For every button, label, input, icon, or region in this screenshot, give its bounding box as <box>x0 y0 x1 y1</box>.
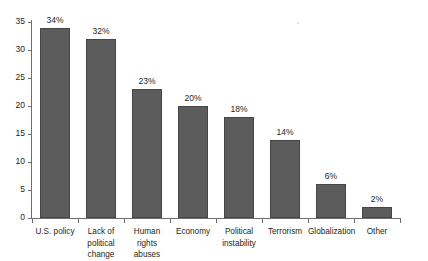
bar <box>316 184 346 218</box>
y-axis-tick: 35 <box>0 22 32 23</box>
y-axis-tick: 20 <box>0 106 32 107</box>
x-axis-category-label-line: Globalization <box>308 226 354 238</box>
x-axis-category-label: Terrorism <box>262 226 308 238</box>
bar-value-label: 32% <box>75 26 127 36</box>
bar-value-label: 18% <box>213 104 265 114</box>
y-axis-tick: 5 <box>0 190 32 191</box>
x-axis-tick-mark <box>354 219 355 223</box>
plot-area <box>32 22 400 218</box>
x-axis-category-label-line: Lack of <box>78 226 124 238</box>
y-axis-tick-label: 20 <box>16 100 25 111</box>
x-axis-category-label-line: instability <box>216 238 262 250</box>
x-axis-category-label-line: abuses <box>124 249 170 261</box>
y-axis-tick-label: 30 <box>16 44 25 55</box>
bar-value-label: 20% <box>167 93 219 103</box>
x-axis-category-label-line: Economy <box>170 226 216 238</box>
y-axis-tick: 30 <box>0 50 32 51</box>
y-axis-tick: 0 <box>0 218 32 219</box>
y-axis-tick-label: 25 <box>16 72 25 83</box>
x-axis-category-label: Other <box>354 226 400 238</box>
x-axis-tick-mark <box>262 219 263 223</box>
x-axis-tick-mark <box>124 219 125 223</box>
y-axis-tick: 10 <box>0 162 32 163</box>
x-axis-category-label-line: change <box>78 249 124 261</box>
x-axis-tick-mark <box>216 219 217 223</box>
y-axis-tick: 25 <box>0 78 32 79</box>
x-axis-category-label-line: Other <box>354 226 400 238</box>
bar <box>270 140 300 218</box>
x-axis-category-label-line: Political <box>216 226 262 238</box>
x-axis-category-label: Globalization <box>308 226 354 238</box>
bar <box>40 28 70 218</box>
x-axis-category-label: U.S. policy <box>32 226 78 238</box>
bar-value-label: 2% <box>351 194 403 204</box>
bar <box>132 89 162 218</box>
bar-value-label: 23% <box>121 76 173 86</box>
y-axis-tick-label: 0 <box>20 212 25 223</box>
x-axis-tick-mark <box>78 219 79 223</box>
bar-value-label: 6% <box>305 171 357 181</box>
bar-value-label: 34% <box>29 15 81 25</box>
x-axis-category-label-line: rights <box>124 238 170 250</box>
x-axis-category-label-line: Terrorism <box>262 226 308 238</box>
x-axis-tick-mark <box>308 219 309 223</box>
bar-value-label: 14% <box>259 127 311 137</box>
x-axis-category-label-line: political <box>78 238 124 250</box>
y-axis-tick-label: 10 <box>16 156 25 167</box>
x-axis-category-label-line: U.S. policy <box>32 226 78 238</box>
bar <box>86 39 116 218</box>
x-axis-category-label: Politicalinstability <box>216 226 262 249</box>
bar <box>178 106 208 218</box>
x-axis-tick-mark <box>32 219 33 223</box>
x-axis-category-label: Humanrightsabuses <box>124 226 170 261</box>
bar <box>362 207 392 218</box>
y-axis-tick-label: 5 <box>20 184 25 195</box>
x-axis-category-label: Lack ofpoliticalchange <box>78 226 124 261</box>
y-axis-tick: 15 <box>0 134 32 135</box>
x-axis-tick-mark <box>170 219 171 223</box>
bar <box>224 117 254 218</box>
y-axis-tick-label: 15 <box>16 128 25 139</box>
y-axis-tick-label: 35 <box>16 16 25 27</box>
x-axis-tick-mark <box>400 219 401 223</box>
x-axis-category-label-line: Human <box>124 226 170 238</box>
x-axis-category-label: Economy <box>170 226 216 238</box>
